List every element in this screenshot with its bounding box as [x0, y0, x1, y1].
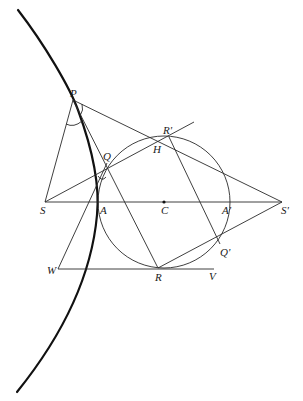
hyperbola-curve — [17, 10, 98, 392]
line-Rprime-Qprime — [169, 137, 220, 244]
label-A-prime: A' — [221, 204, 232, 216]
label-W: W — [47, 264, 57, 276]
label-V: V — [209, 270, 217, 282]
line-P-R — [73, 100, 158, 268]
label-Q-prime: Q' — [220, 246, 231, 258]
label-R: R — [154, 271, 162, 283]
hyperbola-diagram: P Q R' H S A C A' S' Q' W R V — [0, 0, 303, 401]
label-R-prime: R' — [162, 124, 173, 136]
label-A: A — [99, 204, 107, 216]
label-Q: Q — [103, 150, 111, 162]
line-Sprime-R — [158, 202, 282, 268]
label-S-prime: S' — [281, 204, 290, 216]
label-P: P — [69, 87, 77, 99]
label-C: C — [161, 204, 169, 216]
label-H: H — [152, 143, 162, 155]
label-S: S — [40, 204, 46, 216]
angle-arc-P — [66, 121, 82, 125]
line-P-S — [45, 100, 73, 202]
